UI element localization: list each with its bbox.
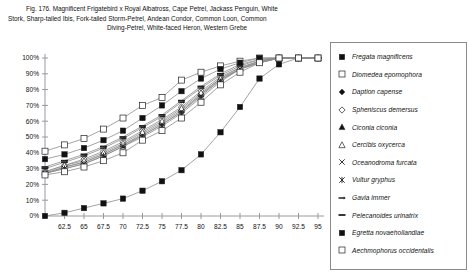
legend-label: Spheniscus demersus [352, 106, 418, 113]
legend-marker [337, 209, 352, 221]
data-marker [62, 210, 67, 215]
data-marker [296, 55, 302, 61]
legend-marker-filled-square [337, 51, 352, 63]
data-marker [339, 142, 345, 148]
legend-marker [337, 104, 352, 116]
y-tick-label: 20% [26, 181, 39, 188]
data-marker [344, 196, 346, 199]
data-marker [179, 167, 184, 172]
y-tick-label: 90% [26, 70, 39, 77]
legend-marker [337, 192, 352, 204]
data-marker [81, 164, 87, 170]
legend-label: Ciconia ciconia [352, 124, 397, 131]
y-tick-label: 60% [26, 118, 39, 125]
data-marker [237, 69, 243, 75]
data-marker [81, 205, 86, 210]
x-tick-label: 67.5 [97, 223, 110, 230]
data-marker [120, 128, 125, 133]
x-tick-label: 85 [236, 223, 244, 230]
x-tick-label: 65 [80, 223, 88, 230]
legend-marker-dash-arrow [337, 192, 352, 204]
data-marker [339, 54, 344, 59]
data-marker [179, 77, 185, 83]
figure-caption: Fig. 176. Magnificent Frigatebird x Roya… [0, 4, 340, 33]
legend-item[interactable]: Spheniscus demersus [337, 101, 462, 119]
data-marker [276, 55, 282, 61]
y-tick-label: 0% [29, 212, 39, 219]
legend-item[interactable]: Diomedea epomophora [337, 66, 462, 84]
legend-item[interactable]: Egretta novaehollandiae [337, 224, 462, 242]
legend-item[interactable]: Aechmophorus occidentalis [337, 242, 462, 260]
legend-item[interactable]: Fregata magnificens [337, 48, 462, 66]
data-marker [140, 102, 146, 108]
data-marker [81, 145, 86, 150]
data-marker [218, 66, 223, 71]
data-marker [62, 152, 67, 157]
legend-label: Gavia immer [352, 194, 390, 201]
legend-marker-open-diamond [337, 104, 352, 116]
y-tick-label: 40% [26, 149, 39, 156]
y-tick-label: 80% [26, 86, 39, 93]
data-marker [237, 60, 242, 65]
data-marker [42, 148, 48, 154]
legend-label: Aechmophorus occidentalis [352, 247, 434, 254]
legend-marker [337, 156, 352, 168]
figure-root: Fig. 176. Magnificent Frigatebird x Roya… [0, 0, 469, 274]
data-marker [276, 62, 281, 67]
data-marker [218, 82, 224, 88]
legend-item[interactable]: Vultur gryphus [337, 171, 462, 189]
line-chart-svg: 0%10%20%30%40%50%60%70%80%90%100%62.5656… [0, 44, 330, 264]
legend-marker [337, 51, 352, 63]
legend-marker [337, 227, 352, 239]
data-marker [339, 106, 345, 112]
data-marker [159, 95, 165, 101]
data-marker [81, 136, 87, 142]
legend-item[interactable]: Pelecanoides urinatrix [337, 206, 462, 224]
x-tick-label: 62.5 [58, 223, 71, 230]
data-marker [198, 76, 203, 81]
x-tick-label: 95 [314, 223, 322, 230]
x-tick-label: 77.5 [175, 223, 188, 230]
data-marker [101, 201, 106, 206]
data-marker [339, 230, 344, 235]
x-tick-label: 92.5 [292, 223, 305, 230]
legend-label: Fregata magnificens [352, 53, 413, 60]
legend-marker [337, 139, 352, 151]
data-marker [198, 99, 204, 105]
x-tick-label: 82.5 [214, 223, 227, 230]
data-marker [339, 124, 345, 130]
data-marker [179, 115, 185, 121]
legend-item[interactable]: Gavia immer [337, 189, 462, 207]
data-marker [140, 115, 145, 120]
data-marker [42, 156, 47, 161]
data-marker [237, 104, 242, 109]
legend-marker-x-cross [337, 156, 352, 168]
legend-label: Cercibis oxycerca [352, 141, 405, 148]
legend-label: Daption capense [352, 88, 402, 95]
legend-label: Diomedea epomophora [352, 71, 422, 78]
legend-item[interactable]: Ciconia ciconia [337, 118, 462, 136]
legend-marker-dash [337, 209, 352, 221]
data-marker [159, 128, 165, 134]
legend-label: Oceanodroma furcata [352, 159, 417, 166]
y-tick-label: 10% [26, 197, 39, 204]
y-tick-label: 50% [26, 133, 39, 140]
caption-line-1: Fig. 176. Magnificent Frigatebird x Roya… [0, 4, 340, 14]
data-marker [140, 137, 146, 143]
chart-legend: Fregata magnificensDiomedea epomophoraDa… [330, 42, 467, 270]
data-marker [159, 103, 164, 108]
data-marker [42, 172, 48, 178]
legend-item[interactable]: Oceanodroma furcata [337, 154, 462, 172]
y-tick-label: 30% [26, 165, 39, 172]
x-tick-label: 75 [158, 223, 166, 230]
legend-label: Vultur gryphus [352, 176, 395, 183]
data-marker [140, 188, 145, 193]
legend-marker-filled-triangle [337, 121, 352, 133]
legend-item[interactable]: Daption capense [337, 83, 462, 101]
data-marker [120, 196, 125, 201]
data-marker [198, 69, 204, 75]
x-tick-label: 80 [197, 223, 205, 230]
x-tick-label: 90 [275, 223, 283, 230]
legend-item[interactable]: Cercibis oxycerca [337, 136, 462, 154]
caption-line-3: Diving-Petrel, White-faced Heron, Wester… [0, 23, 340, 33]
